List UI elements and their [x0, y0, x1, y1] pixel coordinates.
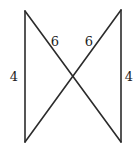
bowtie-diagram: 4 4 6 6 [0, 0, 138, 162]
label-right-vertical: 4 [125, 69, 133, 84]
label-upper-right-diagonal: 6 [85, 34, 93, 49]
label-left-vertical: 4 [10, 69, 18, 84]
label-upper-left-diagonal: 6 [51, 34, 59, 49]
